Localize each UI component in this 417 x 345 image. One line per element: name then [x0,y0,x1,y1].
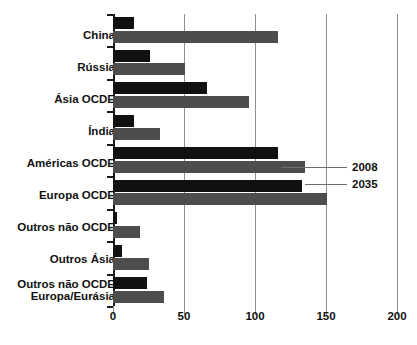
bar-2008-5 [113,180,302,192]
category-label-india: Índia [0,125,115,137]
bar-2008-2 [113,82,207,94]
bar-2035-6 [113,226,140,238]
bar-2035-5 [113,193,327,205]
plot-area [113,14,397,306]
annotation-leader-line-2035 [305,184,347,185]
y-tick-mark-6 [107,209,114,211]
bar-2035-1 [113,63,185,75]
bar-2035-7 [113,258,149,270]
bar-2008-3 [113,115,134,127]
y-tick-mark-3 [107,111,114,113]
x-tick-label-50: 50 [164,310,204,322]
category-label-outros-asia: Outros Ásia [0,253,115,265]
category-label-outros-nao-ocde: Outros não OCDE [0,221,115,233]
annotation-label-2035: 2035 [352,178,378,190]
category-label-china: China [0,29,115,41]
y-tick-mark-8 [107,274,114,276]
x-tick-label-200: 200 [377,310,417,322]
y-tick-mark-1 [107,46,114,48]
y-tick-mark-5 [107,176,114,178]
y-tick-mark-7 [107,241,114,243]
x-tick-label-0: 0 [93,310,133,322]
gridline-200 [397,14,398,306]
bar-2035-0 [113,31,278,43]
annotation-leader-line-2008 [281,167,347,168]
category-label-europa-ocde: Europa OCDE [0,189,115,201]
bar-2008-0 [113,17,134,29]
bar-2035-2 [113,96,249,108]
bar-2008-8 [113,277,147,289]
category-label-asia-ocde: Ásia OCDE [0,93,115,105]
bar-2035-4 [113,161,305,173]
x-tick-label-100: 100 [235,310,275,322]
gridline-150 [326,14,327,306]
y-tick-mark-4 [107,144,114,146]
bar-2008-7 [113,245,122,257]
bar-2008-1 [113,50,150,62]
bar-2008-4 [113,147,278,159]
bar-2035-3 [113,128,160,140]
category-label-outros-nao-ocde-europa-eurasia: Outros não OCDE Europa/Eurásia [0,278,115,302]
category-label-russia: Rússia [0,61,115,73]
y-tick-mark-2 [107,79,114,81]
bar-chart: China Rússia Ásia OCDE Índia Américas OC… [0,0,417,345]
x-tick-label-150: 150 [306,310,346,322]
category-label-americas-ocde: Américas OCDE [0,157,115,169]
annotation-label-2008: 2008 [352,161,378,173]
bar-2008-6 [113,212,117,224]
bar-2035-8 [113,291,164,303]
y-tick-mark-0 [107,14,114,16]
